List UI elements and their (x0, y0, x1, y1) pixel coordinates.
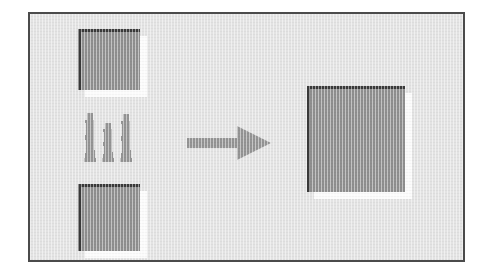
square-bottom-left (78, 184, 140, 251)
square-top-left (78, 29, 140, 90)
arrow-right-icon (187, 126, 271, 160)
figure-frame (28, 12, 465, 262)
people-group-icon (84, 113, 136, 167)
square-result (307, 86, 405, 192)
figure-canvas (0, 0, 489, 276)
